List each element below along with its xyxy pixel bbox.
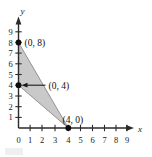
plot-svg: 0 1 2 3 4 5 6 7 8 9 1 2 3 4 5 6 7 8 9 y … (0, 0, 152, 157)
y-tick-label-8: 8 (8, 38, 12, 48)
caption-stub (5, 148, 23, 155)
x-tick-label-0: 0 (16, 135, 20, 145)
y-tick-label-3: 3 (8, 91, 12, 101)
x-axis-label: x (137, 124, 142, 134)
y-axis-arrowhead (16, 17, 22, 25)
x-tick-label-6: 6 (90, 135, 94, 145)
x-tick-label-7: 7 (102, 135, 106, 145)
x-tick-label-4: 4 (66, 135, 71, 145)
y-tick-label-5: 5 (8, 70, 12, 80)
x-tick-label-2: 2 (40, 135, 44, 145)
y-axis-label: y (20, 6, 25, 16)
y-tick-label-1: 1 (8, 112, 12, 122)
x-tick-label-3: 3 (53, 135, 57, 145)
point-label-4-0: (4, 0) (63, 115, 84, 126)
x-tick-label-9: 9 (125, 135, 129, 145)
x-tick-label-1: 1 (28, 135, 32, 145)
point-label-0-4: (0, 4) (49, 81, 70, 92)
y-tick-label-7: 7 (8, 48, 12, 58)
point-marker-0-4 (16, 82, 22, 88)
x-tick-label-5: 5 (78, 135, 82, 145)
point-marker-0-8 (16, 40, 22, 46)
y-tick-label-2: 2 (8, 102, 12, 112)
y-tick-label-4: 4 (8, 80, 13, 90)
point-label-0-8: (0, 8) (25, 38, 46, 49)
coordinate-plane-figure: 0 1 2 3 4 5 6 7 8 9 1 2 3 4 5 6 7 8 9 y … (0, 0, 152, 157)
y-tick-label-6: 6 (8, 59, 12, 69)
point-marker-4-0 (65, 125, 71, 131)
x-tick-label-8: 8 (114, 135, 118, 145)
y-tick-label-9: 9 (8, 27, 12, 37)
